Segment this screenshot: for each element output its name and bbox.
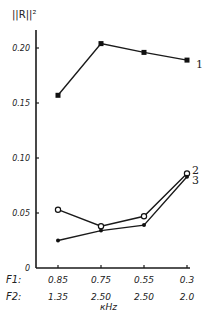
chart: ||R||² 00.050.100.150.20 F1:0.850.750.55… (0, 0, 212, 323)
series-3-line (58, 177, 187, 241)
series-3-point (185, 175, 189, 179)
x-tick-label: 2.50 (134, 292, 154, 302)
series-1-point (99, 41, 104, 46)
y-tick-label: 0.10 (12, 154, 30, 163)
series-1-label: 1 (196, 58, 203, 71)
x-tick-label: 2.50 (91, 292, 111, 302)
series-2-point (98, 224, 103, 229)
y-tick-label: 0 (25, 264, 30, 273)
series-2-point (55, 207, 60, 212)
y-axis-label: ||R||² (12, 9, 36, 21)
series-1-line (58, 44, 187, 96)
series-1-point (56, 93, 61, 98)
x-tick-label: 0.85 (48, 275, 68, 285)
y-tick-label: 0.05 (12, 209, 30, 218)
series-1-point (142, 50, 147, 55)
x-tick-label: 0.55 (134, 275, 154, 285)
y-tick-label: 0.20 (12, 44, 30, 53)
series-1-point (185, 58, 190, 63)
series-3-point (142, 223, 146, 227)
series-3-point (56, 239, 60, 243)
y-tick-label: 0.15 (12, 99, 30, 108)
series-2-line (58, 173, 187, 226)
x-tick-label: 1.35 (48, 292, 68, 302)
x-row-name: F1: (6, 274, 21, 285)
x-unit-label: кHz (100, 302, 117, 312)
series-3-label: 3 (192, 174, 199, 187)
x-row-name: F2: (6, 291, 21, 302)
x-tick-label: 0.3 (180, 275, 195, 285)
series-3-point (99, 229, 103, 233)
x-tick-label: 2.0 (180, 292, 195, 302)
x-tick-label: 0.75 (91, 275, 111, 285)
series-2-point (141, 214, 146, 219)
